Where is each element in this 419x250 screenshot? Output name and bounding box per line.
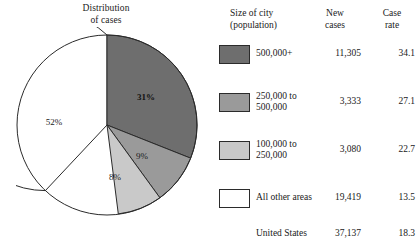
pie-chart-panel: Distribution of cases 31% 9% 8% 52% — [0, 0, 212, 250]
cell-new-cases: 3,333 — [305, 96, 361, 106]
row-label-100000-to-250000: 100,000 to 250,000 — [256, 139, 297, 161]
cell-new-cases: 19,419 — [305, 192, 361, 202]
column-header-new-line1: New — [326, 8, 344, 18]
legend-swatch-250000-to-500000 — [219, 93, 250, 112]
row-label-line2: 250,000 — [256, 150, 297, 161]
table-header-row: Size of city (population) New cases Case… — [212, 8, 419, 38]
pie-label-100000-to-250000: 8% — [109, 172, 122, 182]
pie-chart-graphic: 31% 9% 8% 52% — [16, 27, 198, 223]
column-header-case-rate: Case rate — [369, 8, 415, 31]
pie-label-all-other-areas: 52% — [46, 117, 63, 127]
table-row: 100,000 to 250,000 3,080 22.7 — [212, 138, 419, 164]
legend-swatch-500000-plus — [219, 45, 250, 64]
pie-title-line2: of cases — [0, 15, 212, 27]
row-label-all-other-areas: All other areas — [256, 192, 312, 203]
column-header-rate-line1: Case — [383, 8, 401, 18]
row-label-500000-plus: 500,000+ — [256, 48, 292, 59]
pie-label-250000-to-500000: 9% — [136, 151, 149, 161]
pie-chart-title: Distribution of cases — [0, 3, 212, 26]
table-row: 250,000 to 500,000 3,333 27.1 — [212, 90, 419, 116]
column-header-new-line2: cases — [309, 20, 361, 32]
column-header-new-cases: New cases — [309, 8, 361, 31]
legend-swatch-100000-to-250000 — [219, 141, 250, 160]
legend-swatch-all-other-areas — [219, 189, 250, 208]
cell-case-rate: 34.1 — [364, 48, 415, 58]
row-label-line1: 100,000 to — [256, 139, 297, 149]
column-header-size-line2: (population) — [230, 20, 277, 32]
row-label-line1: All other areas — [256, 192, 312, 202]
cell-new-cases: 3,080 — [305, 144, 361, 154]
pie-slice-all-other-areas — [16, 27, 107, 191]
cell-case-rate: 22.7 — [364, 144, 415, 154]
row-label-line1: 250,000 to — [256, 91, 297, 101]
row-label-line1: United States — [256, 228, 307, 238]
pie-label-500000-plus: 31% — [137, 92, 155, 102]
cell-case-rate: 27.1 — [364, 96, 415, 106]
column-header-size-line1: Size of city — [230, 8, 273, 18]
row-label-line1: 500,000+ — [256, 48, 292, 58]
cell-new-cases: 11,305 — [305, 48, 361, 58]
column-header-size-of-city: Size of city (population) — [230, 8, 277, 31]
row-label-line2: 500,000 — [256, 102, 297, 113]
column-header-rate-line2: rate — [369, 20, 415, 32]
table-total-row: United States 37,137 18.3 — [212, 222, 419, 248]
table-row: All other areas 19,419 13.5 — [212, 186, 419, 212]
cell-total-new-cases: 37,137 — [305, 228, 361, 238]
cell-total-case-rate: 18.3 — [364, 228, 415, 238]
table-row: 500,000+ 11,305 34.1 — [212, 42, 419, 68]
cell-case-rate: 13.5 — [364, 192, 415, 202]
pie-title-line1: Distribution — [82, 3, 129, 13]
row-label-250000-to-500000: 250,000 to 500,000 — [256, 91, 297, 113]
data-table-panel: Size of city (population) New cases Case… — [212, 0, 419, 250]
row-label-united-states: United States — [256, 228, 307, 239]
